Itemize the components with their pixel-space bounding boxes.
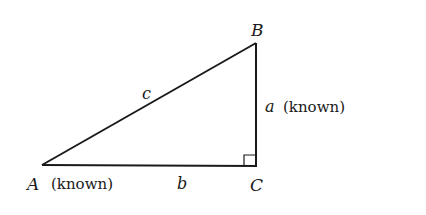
right-angle-marker	[244, 155, 256, 166]
side-label-a: a	[265, 97, 275, 116]
side-label-c: c	[142, 84, 151, 103]
vertex-label-c: C	[250, 175, 263, 195]
right-triangle-diagram: B A (known) C c a (known) b	[0, 0, 426, 215]
angle-a-known-note: (known)	[51, 175, 113, 193]
vertex-label-b: B	[250, 20, 264, 40]
side-a-known-note: (known)	[283, 98, 345, 116]
side-b-base	[42, 165, 257, 166]
side-c-hypotenuse	[42, 43, 256, 165]
vertex-label-a: A	[25, 174, 39, 194]
side-label-b: b	[177, 174, 187, 193]
